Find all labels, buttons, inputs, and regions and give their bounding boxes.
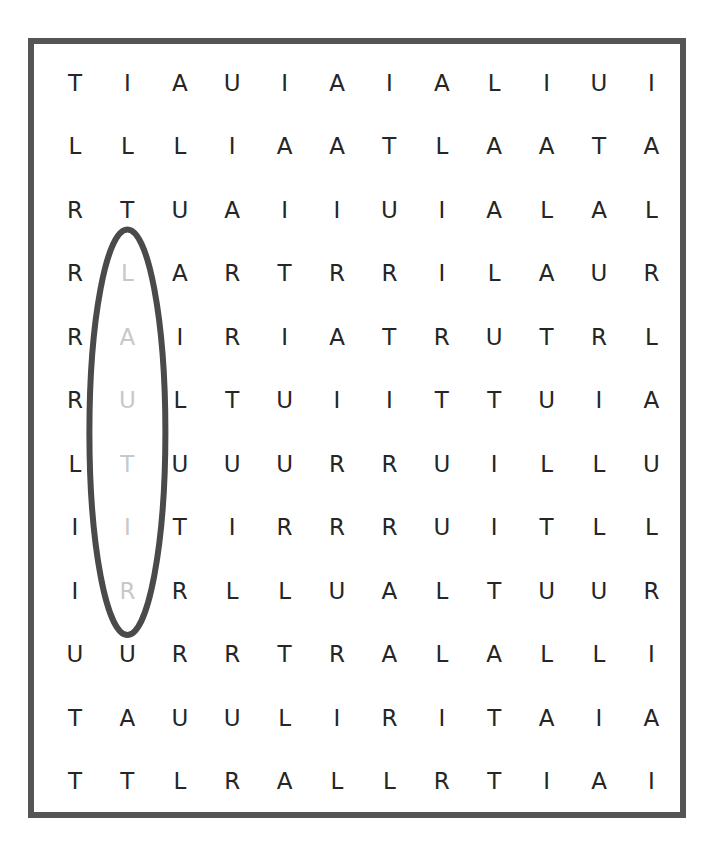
grid-cell[interactable]: R: [422, 317, 462, 357]
grid-cell[interactable]: I: [422, 190, 462, 230]
grid-cell[interactable]: I: [631, 635, 671, 675]
grid-cell[interactable]: T: [422, 381, 462, 421]
grid-cell[interactable]: A: [160, 254, 200, 294]
grid-cell[interactable]: I: [107, 508, 147, 548]
grid-cell[interactable]: A: [212, 190, 252, 230]
grid-cell[interactable]: I: [55, 508, 95, 548]
grid-cell[interactable]: L: [527, 635, 567, 675]
grid-cell[interactable]: I: [317, 698, 357, 738]
grid-cell[interactable]: R: [55, 254, 95, 294]
grid-cell[interactable]: A: [579, 190, 619, 230]
grid-cell[interactable]: A: [631, 381, 671, 421]
grid-cell[interactable]: A: [369, 635, 409, 675]
grid-cell[interactable]: R: [212, 762, 252, 802]
grid-cell[interactable]: U: [422, 444, 462, 484]
grid-cell[interactable]: L: [527, 190, 567, 230]
grid-cell[interactable]: A: [265, 127, 305, 167]
grid-cell[interactable]: U: [212, 444, 252, 484]
grid-cell[interactable]: T: [527, 508, 567, 548]
grid-cell[interactable]: I: [527, 63, 567, 103]
grid-cell[interactable]: L: [631, 317, 671, 357]
grid-cell[interactable]: I: [212, 127, 252, 167]
grid-cell[interactable]: U: [160, 698, 200, 738]
grid-cell[interactable]: U: [579, 63, 619, 103]
grid-cell[interactable]: L: [317, 762, 357, 802]
grid-cell[interactable]: R: [317, 635, 357, 675]
grid-cell[interactable]: L: [527, 444, 567, 484]
grid-cell[interactable]: R: [55, 381, 95, 421]
grid-cell[interactable]: I: [212, 508, 252, 548]
grid-cell[interactable]: L: [160, 381, 200, 421]
grid-cell[interactable]: U: [422, 508, 462, 548]
grid-cell[interactable]: T: [369, 127, 409, 167]
grid-cell[interactable]: U: [579, 571, 619, 611]
grid-cell[interactable]: U: [160, 444, 200, 484]
grid-cell[interactable]: L: [579, 444, 619, 484]
grid-cell[interactable]: U: [631, 444, 671, 484]
grid-cell[interactable]: R: [212, 317, 252, 357]
grid-cell[interactable]: L: [631, 190, 671, 230]
grid-cell[interactable]: I: [265, 190, 305, 230]
grid-cell[interactable]: L: [474, 63, 514, 103]
grid-cell[interactable]: U: [527, 381, 567, 421]
grid-cell[interactable]: T: [160, 508, 200, 548]
grid-cell[interactable]: R: [212, 254, 252, 294]
grid-cell[interactable]: I: [631, 762, 671, 802]
grid-cell[interactable]: I: [107, 63, 147, 103]
grid-cell[interactable]: L: [579, 635, 619, 675]
grid-cell[interactable]: L: [474, 254, 514, 294]
grid-cell[interactable]: U: [160, 190, 200, 230]
grid-cell[interactable]: R: [369, 444, 409, 484]
grid-cell[interactable]: T: [369, 317, 409, 357]
grid-cell[interactable]: R: [160, 635, 200, 675]
grid-cell[interactable]: U: [212, 698, 252, 738]
grid-cell[interactable]: I: [579, 698, 619, 738]
grid-cell[interactable]: R: [55, 190, 95, 230]
grid-cell[interactable]: A: [317, 317, 357, 357]
grid-cell[interactable]: U: [107, 635, 147, 675]
grid-cell[interactable]: A: [369, 571, 409, 611]
grid-cell[interactable]: A: [317, 127, 357, 167]
grid-cell[interactable]: T: [579, 127, 619, 167]
grid-cell[interactable]: I: [631, 63, 671, 103]
grid-cell[interactable]: R: [317, 254, 357, 294]
grid-cell[interactable]: L: [579, 508, 619, 548]
grid-cell[interactable]: R: [422, 762, 462, 802]
grid-cell[interactable]: T: [55, 698, 95, 738]
grid-cell[interactable]: I: [317, 381, 357, 421]
grid-cell[interactable]: I: [474, 444, 514, 484]
grid-cell[interactable]: L: [422, 127, 462, 167]
grid-cell[interactable]: T: [107, 444, 147, 484]
grid-cell[interactable]: U: [579, 254, 619, 294]
grid-cell[interactable]: U: [265, 444, 305, 484]
grid-cell[interactable]: L: [265, 571, 305, 611]
grid-cell[interactable]: A: [160, 63, 200, 103]
grid-cell[interactable]: R: [579, 317, 619, 357]
grid-cell[interactable]: R: [631, 254, 671, 294]
grid-cell[interactable]: U: [317, 571, 357, 611]
grid-cell[interactable]: L: [107, 127, 147, 167]
grid-cell[interactable]: L: [55, 444, 95, 484]
grid-cell[interactable]: I: [317, 190, 357, 230]
grid-cell[interactable]: I: [265, 63, 305, 103]
grid-cell[interactable]: L: [55, 127, 95, 167]
grid-cell[interactable]: R: [369, 254, 409, 294]
grid-cell[interactable]: A: [631, 698, 671, 738]
grid-cell[interactable]: L: [422, 571, 462, 611]
grid-cell[interactable]: T: [474, 571, 514, 611]
grid-cell[interactable]: R: [212, 635, 252, 675]
grid-cell[interactable]: L: [160, 762, 200, 802]
grid-cell[interactable]: U: [107, 381, 147, 421]
grid-cell[interactable]: U: [55, 635, 95, 675]
grid-cell[interactable]: R: [369, 698, 409, 738]
grid-cell[interactable]: U: [212, 63, 252, 103]
grid-cell[interactable]: L: [160, 127, 200, 167]
grid-cell[interactable]: T: [55, 762, 95, 802]
grid-cell[interactable]: I: [422, 698, 462, 738]
grid-cell[interactable]: A: [527, 698, 567, 738]
grid-cell[interactable]: I: [422, 254, 462, 294]
grid-cell[interactable]: R: [631, 571, 671, 611]
grid-cell[interactable]: I: [369, 63, 409, 103]
grid-cell[interactable]: L: [369, 762, 409, 802]
grid-cell[interactable]: I: [265, 317, 305, 357]
